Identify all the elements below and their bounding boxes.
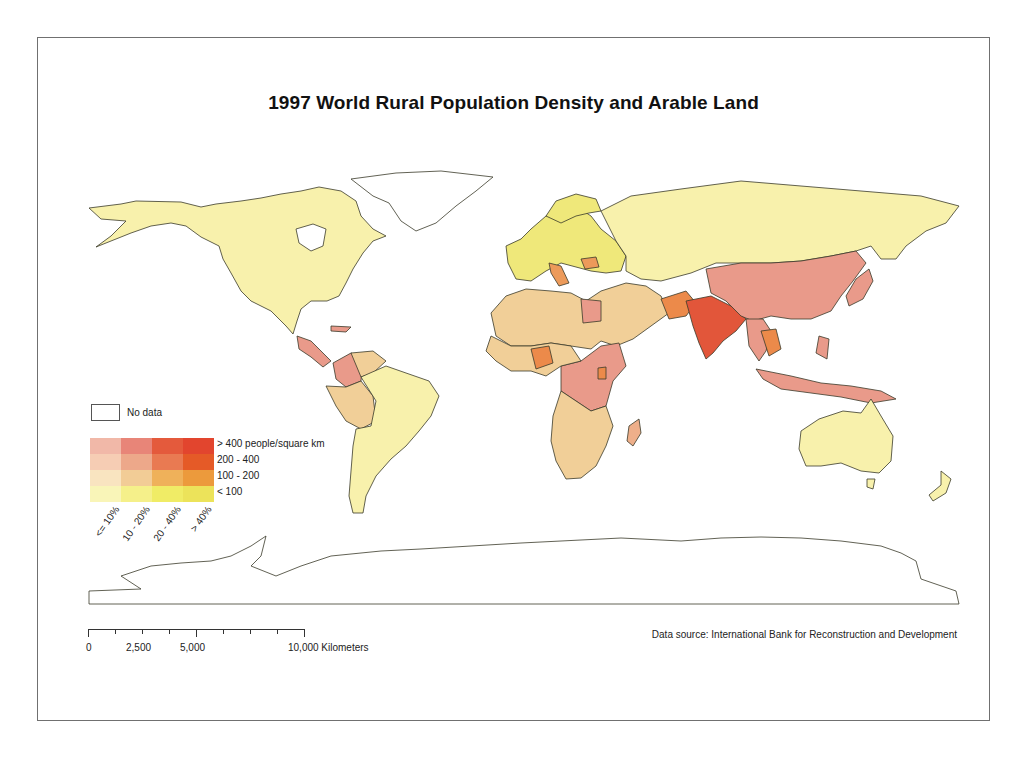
- region-greenland: [351, 171, 493, 231]
- legend-no-data: No data: [91, 404, 162, 421]
- region-australia: [799, 399, 893, 473]
- no-data-swatch: [91, 404, 120, 421]
- scale-tick: [115, 629, 116, 634]
- legend-cell: [183, 438, 214, 454]
- density-label: > 400 people/square km: [217, 436, 325, 452]
- bivariate-legend-grid: [90, 438, 214, 502]
- scale-tick: [169, 629, 170, 634]
- region-north-america: [89, 187, 386, 334]
- region-caribbean: [331, 326, 351, 332]
- scale-tick: [304, 629, 305, 637]
- region-new-zealand: [929, 471, 951, 501]
- region-central-africa: [581, 299, 601, 323]
- legend-cell: [90, 486, 121, 502]
- region-central-america: [297, 336, 331, 367]
- legend-cell: [183, 486, 214, 502]
- legend-cell: [121, 438, 152, 454]
- arable-label: 10 - 20%: [120, 504, 152, 543]
- world-map: [38, 38, 991, 722]
- legend-cell: [152, 470, 183, 486]
- legend-cell: [183, 470, 214, 486]
- scale-tick: [142, 629, 143, 634]
- arable-label: 20 - 40%: [151, 504, 183, 543]
- legend-cell: [90, 470, 121, 486]
- region-philippines: [816, 336, 829, 359]
- arable-label: > 40%: [189, 504, 214, 534]
- scale-label-0: 0: [86, 642, 92, 653]
- legend-cell: [90, 454, 121, 470]
- scale-tick: [196, 629, 197, 637]
- region-north-africa: [491, 283, 669, 349]
- region-italy: [549, 263, 569, 286]
- scale-tick: [223, 629, 224, 634]
- scale-tick: [88, 629, 89, 637]
- density-label: < 100: [217, 484, 325, 500]
- scale-tick: [277, 629, 278, 634]
- density-label: 100 - 200: [217, 468, 325, 484]
- region-madagascar: [627, 419, 641, 446]
- legend-cell: [121, 470, 152, 486]
- legend-cell: [152, 438, 183, 454]
- no-data-label: No data: [127, 407, 162, 418]
- map-frame: 1997 World Rural Population Density and …: [37, 37, 990, 721]
- legend-cell: [183, 454, 214, 470]
- region-indonesia: [756, 369, 896, 403]
- legend-cell: [152, 454, 183, 470]
- legend-cell: [90, 438, 121, 454]
- scale-label-2500: 2,500: [126, 642, 151, 653]
- scale-label-10000: 10,000 Kilometers: [288, 642, 369, 653]
- density-label: 200 - 400: [217, 452, 325, 468]
- legend-cell: [121, 454, 152, 470]
- arable-label: <= 10%: [92, 504, 121, 539]
- region-tasmania: [867, 479, 875, 489]
- legend-cell: [121, 486, 152, 502]
- legend-cell: [152, 486, 183, 502]
- scale-label-5000: 5,000: [180, 642, 205, 653]
- data-source: Data source: International Bank for Reco…: [652, 629, 957, 640]
- region-uganda: [598, 367, 606, 379]
- density-legend-labels: > 400 people/square km 200 - 400 100 - 2…: [217, 436, 325, 500]
- arable-legend-labels: <= 10% 10 - 20% 20 - 40% > 40%: [90, 504, 220, 554]
- scale-tick: [250, 629, 251, 634]
